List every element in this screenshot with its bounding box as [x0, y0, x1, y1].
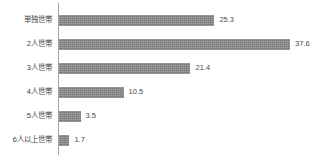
category-label: 5人世帯: [0, 111, 52, 121]
bar: [59, 63, 190, 74]
bar-row: 2人世帯37.6: [0, 32, 325, 56]
category-label: 3人世帯: [0, 63, 52, 73]
category-label: 2人世帯: [0, 39, 52, 49]
bar-value-label: 3.5: [86, 111, 96, 121]
bar-row: 3人世帯21.4: [0, 56, 325, 80]
bar: [59, 87, 124, 98]
category-label: 6人以上世帯: [0, 135, 52, 145]
bar-value-label: 1.7: [74, 135, 84, 145]
category-label: 単独世帯: [0, 15, 52, 25]
category-label: 4人世帯: [0, 87, 52, 97]
bar: [59, 15, 214, 26]
bar-and-value: 3.5: [59, 111, 96, 122]
bar-row: 単独世帯25.3: [0, 8, 325, 32]
bar-value-label: 25.3: [219, 15, 234, 25]
bar-row: 4人世帯10.5: [0, 80, 325, 104]
bar-value-label: 21.4: [195, 63, 210, 73]
bar-chart: 単独世帯25.32人世帯37.63人世帯21.44人世帯10.55人世帯3.56…: [0, 0, 325, 162]
bar: [59, 111, 81, 122]
bar-value-label: 37.6: [295, 39, 310, 49]
bar-and-value: 25.3: [59, 15, 234, 26]
bar-row: 6人以上世帯1.7: [0, 128, 325, 152]
bar-and-value: 37.6: [59, 39, 310, 50]
bar-value-label: 10.5: [129, 87, 144, 97]
bar-and-value: 21.4: [59, 63, 210, 74]
bar-and-value: 10.5: [59, 87, 143, 98]
bar: [59, 39, 290, 50]
bar-and-value: 1.7: [59, 135, 85, 146]
bar: [59, 135, 69, 146]
bar-row: 5人世帯3.5: [0, 104, 325, 128]
plot-area: 単独世帯25.32人世帯37.63人世帯21.44人世帯10.55人世帯3.56…: [0, 0, 325, 162]
